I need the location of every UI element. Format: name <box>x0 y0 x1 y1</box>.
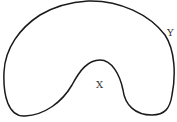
bean-shape-outline <box>4 1 174 116</box>
region-label-y: Y <box>167 28 174 38</box>
region-label-x: X <box>96 80 103 90</box>
closed-curve-diagram <box>0 0 177 122</box>
